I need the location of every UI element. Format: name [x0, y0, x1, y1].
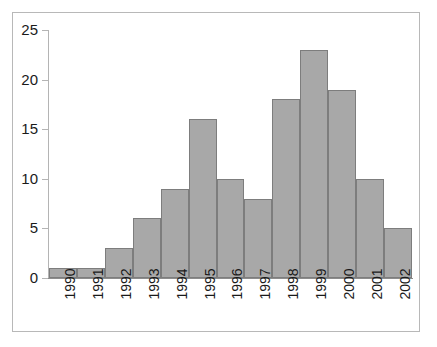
bar-cell	[244, 30, 272, 278]
x-axis-tick-label: 1996	[230, 268, 244, 299]
bar	[300, 50, 328, 278]
chart-page: 0510152025 19901991199219931994199519961…	[0, 0, 437, 347]
x-axis-label-cell: 1997	[244, 282, 272, 342]
bar-series	[49, 30, 412, 278]
bar-cell	[217, 30, 245, 278]
bar	[356, 179, 384, 278]
bar-cell	[49, 30, 77, 278]
bar	[244, 199, 272, 278]
x-axis-tick-label: 1993	[147, 268, 161, 299]
y-axis-labels: 0510152025	[0, 0, 38, 347]
y-axis-tick-label: 5	[30, 220, 38, 235]
bar-cell	[356, 30, 384, 278]
x-axis-label-cell: 1994	[161, 282, 189, 342]
plot-area	[49, 30, 412, 278]
bar-cell	[77, 30, 105, 278]
x-axis-label-cell: 1998	[272, 282, 300, 342]
bar-cell	[272, 30, 300, 278]
x-axis-labels: 1990199119921993199419951996199719981999…	[49, 282, 412, 342]
x-axis-label-cell: 1991	[77, 282, 105, 342]
x-axis-label-cell: 1999	[300, 282, 328, 342]
bar	[272, 99, 300, 278]
x-axis-label-cell: 1996	[217, 282, 245, 342]
x-axis-label-cell: 2002	[384, 282, 412, 342]
y-axis-tick-label: 10	[21, 171, 38, 186]
x-axis-label-cell: 2001	[356, 282, 384, 342]
bar-cell	[133, 30, 161, 278]
x-axis-tick-label: 1995	[203, 268, 217, 299]
x-axis-tick-label: 1991	[91, 268, 105, 299]
x-axis-label-cell: 1992	[105, 282, 133, 342]
y-axis-tick-label: 0	[30, 270, 38, 285]
y-axis-tick-label: 15	[21, 121, 38, 136]
x-axis-tick-label: 1992	[119, 268, 133, 299]
x-axis-label-cell: 1990	[49, 282, 77, 342]
bar	[217, 179, 245, 278]
x-axis-label-cell: 2000	[328, 282, 356, 342]
y-axis-tick-label: 20	[21, 72, 38, 87]
x-axis-tick-label: 1994	[175, 268, 189, 299]
x-axis-tick-label: 1990	[63, 268, 77, 299]
bar-cell	[161, 30, 189, 278]
bar-cell	[300, 30, 328, 278]
x-axis-label-cell: 1995	[189, 282, 217, 342]
bar-cell	[384, 30, 412, 278]
x-axis-tick-label: 2000	[342, 268, 356, 299]
bar-cell	[105, 30, 133, 278]
x-axis-tick-label: 1999	[314, 268, 328, 299]
bar	[189, 119, 217, 278]
bar-cell	[189, 30, 217, 278]
x-axis-tick-label: 1998	[286, 268, 300, 299]
y-axis-tick-label: 25	[21, 22, 38, 37]
x-axis-tick-label: 2001	[370, 268, 384, 299]
bar-cell	[328, 30, 356, 278]
bar	[161, 189, 189, 278]
x-axis-label-cell: 1993	[133, 282, 161, 342]
x-axis-tick-label: 1997	[258, 268, 272, 299]
x-axis-tick-label: 2002	[398, 268, 412, 299]
bar	[328, 90, 356, 278]
